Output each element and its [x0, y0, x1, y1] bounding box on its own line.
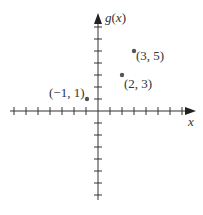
x-axis-label: x	[187, 114, 194, 129]
coordinate-plane: g(x) x (−1, 1) (2, 3) (3, 5)	[0, 0, 203, 215]
y-arrow-icon	[94, 13, 102, 24]
point-label: (−1, 1)	[49, 85, 85, 100]
point-label: (3, 5)	[136, 48, 164, 63]
point-label: (2, 3)	[124, 76, 152, 91]
data-point	[85, 97, 89, 101]
y-axis-label: g(x)	[105, 10, 126, 25]
